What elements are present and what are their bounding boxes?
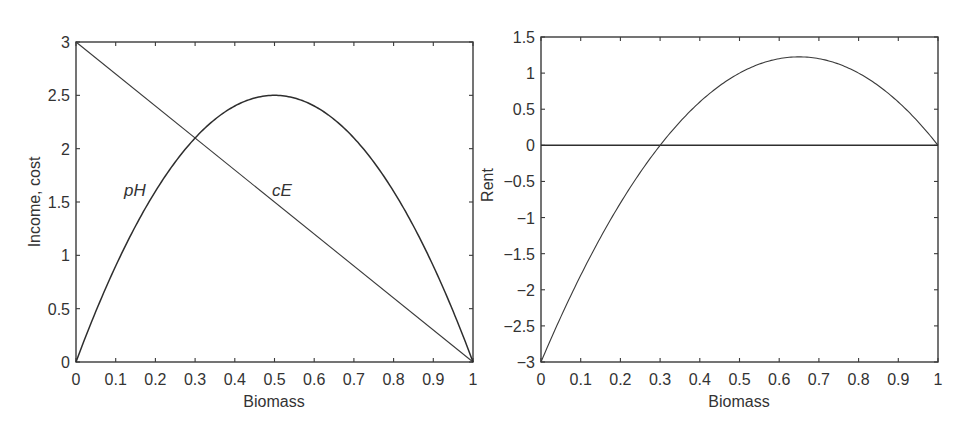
left-chart: 00.10.20.30.40.50.60.70.80.91 00.511.522… bbox=[26, 34, 478, 410]
x-tick-label: 0.3 bbox=[184, 371, 206, 388]
x-tick-label: 0.8 bbox=[382, 371, 404, 388]
x-tick-label: 0.7 bbox=[343, 371, 365, 388]
rent-curve bbox=[541, 57, 938, 362]
x-tick-label: 0.8 bbox=[847, 371, 869, 388]
ph-annotation: pH bbox=[123, 181, 146, 200]
y-tick-label: −1 bbox=[517, 210, 535, 227]
left-y-axis-label: Income, cost bbox=[26, 156, 43, 247]
left-x-axis-label: Biomass bbox=[243, 393, 304, 410]
x-tick-label: 0.9 bbox=[422, 371, 444, 388]
y-tick-label: 0 bbox=[61, 354, 70, 371]
x-tick-label: 0.5 bbox=[263, 371, 285, 388]
right-y-tick-labels: −3−2.5−2−1.5−1−0.500.511.5 bbox=[503, 29, 535, 371]
y-tick-label: −2 bbox=[517, 282, 535, 299]
x-tick-label: 1 bbox=[469, 371, 478, 388]
left-y-tick-labels: 00.511.522.53 bbox=[48, 34, 70, 371]
y-tick-label: 2 bbox=[61, 141, 70, 158]
ce-line bbox=[76, 42, 473, 362]
x-tick-label: 0.2 bbox=[609, 371, 631, 388]
y-tick-label: 0 bbox=[526, 137, 535, 154]
x-tick-label: 0 bbox=[537, 371, 546, 388]
right-x-tick-labels: 00.10.20.30.40.50.60.70.80.91 bbox=[537, 371, 943, 388]
x-tick-label: 0.3 bbox=[649, 371, 671, 388]
ph-curve bbox=[76, 95, 473, 362]
y-tick-label: 1 bbox=[61, 247, 70, 264]
y-tick-label: 2.5 bbox=[48, 87, 70, 104]
x-tick-label: 1 bbox=[934, 371, 943, 388]
x-tick-label: 0.9 bbox=[887, 371, 909, 388]
x-tick-label: 0.4 bbox=[224, 371, 246, 388]
x-tick-label: 0 bbox=[72, 371, 81, 388]
right-y-axis-label: Rent bbox=[479, 168, 496, 202]
y-tick-label: 1.5 bbox=[513, 29, 535, 46]
ce-annotation: cE bbox=[272, 181, 293, 200]
y-tick-label: 1.5 bbox=[48, 194, 70, 211]
x-tick-label: 0.1 bbox=[105, 371, 127, 388]
x-tick-label: 0.6 bbox=[303, 371, 325, 388]
left-x-tick-labels: 00.10.20.30.40.50.60.70.80.91 bbox=[72, 371, 478, 388]
x-tick-label: 0.5 bbox=[728, 371, 750, 388]
y-tick-label: 0.5 bbox=[48, 301, 70, 318]
y-tick-label: −3 bbox=[517, 354, 535, 371]
y-tick-label: 1 bbox=[526, 65, 535, 82]
right-x-axis-label: Biomass bbox=[708, 393, 769, 410]
y-tick-label: −0.5 bbox=[503, 173, 535, 190]
y-tick-label: 0.5 bbox=[513, 101, 535, 118]
right-chart: 00.10.20.30.40.50.60.70.80.91 −3−2.5−2−1… bbox=[479, 29, 943, 410]
x-tick-label: 0.2 bbox=[144, 371, 166, 388]
y-tick-label: 3 bbox=[61, 34, 70, 51]
x-tick-label: 0.7 bbox=[808, 371, 830, 388]
figure: 00.10.20.30.40.50.60.70.80.91 00.511.522… bbox=[0, 0, 959, 432]
x-tick-label: 0.4 bbox=[689, 371, 711, 388]
y-tick-label: −1.5 bbox=[503, 246, 535, 263]
x-tick-label: 0.1 bbox=[570, 371, 592, 388]
x-tick-label: 0.6 bbox=[768, 371, 790, 388]
y-tick-label: −2.5 bbox=[503, 318, 535, 335]
